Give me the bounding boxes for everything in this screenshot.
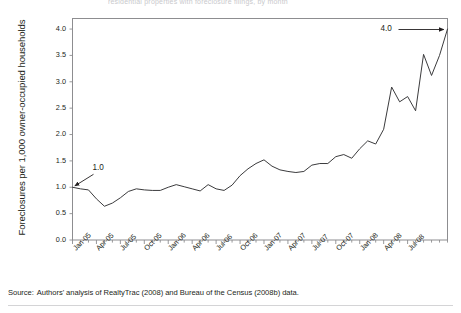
x-tick-label: Jan-07: [262, 231, 284, 253]
end-value-label: 4.0: [381, 24, 392, 33]
x-tick-label: Jan-05: [71, 231, 93, 253]
x-tick-label: Jul-05: [118, 232, 138, 252]
source-label: Source:: [8, 288, 34, 297]
x-tick-label: Jul-07: [310, 232, 330, 252]
x-tick-label: Apr-05: [94, 231, 115, 252]
x-tick-label: Apr-06: [190, 231, 211, 252]
x-tick-label: Oct-07: [334, 231, 355, 252]
start-value-label: 1.0: [93, 163, 104, 172]
bottom-divider: [8, 305, 453, 306]
x-tick-label: Oct-05: [142, 231, 163, 252]
x-tick-label: Apr-08: [382, 231, 403, 252]
source-text: Authors' analysis of RealtyTrac (2008) a…: [37, 288, 299, 297]
x-axis-labels: Jan-05Apr-05Jul-05Oct-05Jan-06Apr-06Jul-…: [0, 0, 461, 313]
source-note: Source:Authors' analysis of RealtyTrac (…: [8, 288, 299, 297]
x-tick-label: Jul-08: [406, 232, 426, 252]
x-tick-label: Oct-06: [238, 231, 259, 252]
x-tick-label: Jul-06: [214, 232, 234, 252]
x-tick-label: Jan-08: [358, 231, 380, 253]
x-tick-label: Apr-07: [286, 231, 307, 252]
figure-container: residential properties with foreclosure …: [0, 0, 461, 313]
x-tick-label: Jan-06: [166, 231, 188, 253]
